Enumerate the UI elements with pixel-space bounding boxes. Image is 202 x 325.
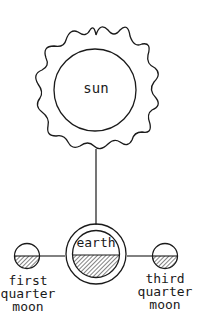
label-line: moon bbox=[0, 300, 56, 313]
label-line: moon bbox=[137, 298, 193, 311]
moon-dark-half bbox=[152, 256, 178, 269]
earth-label: earth bbox=[70, 236, 122, 249]
third-quarter-moon bbox=[152, 244, 178, 270]
moon-dark-half bbox=[14, 256, 40, 269]
first-quarter-moon bbox=[14, 244, 40, 270]
third-quarter-moon-label: third quarter moon bbox=[137, 272, 193, 311]
sun-label: sun bbox=[70, 82, 122, 95]
earth bbox=[66, 224, 126, 284]
first-quarter-moon-label: first quarter moon bbox=[0, 274, 56, 313]
